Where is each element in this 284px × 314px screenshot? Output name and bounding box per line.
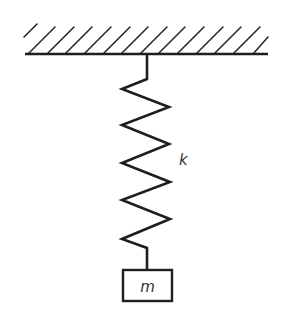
spring (122, 54, 170, 270)
ceiling-hatching (24, 24, 268, 54)
spring-constant-label: k (179, 151, 189, 169)
spring-mass-diagram: k m (0, 0, 284, 314)
mass-label: m (140, 278, 155, 296)
